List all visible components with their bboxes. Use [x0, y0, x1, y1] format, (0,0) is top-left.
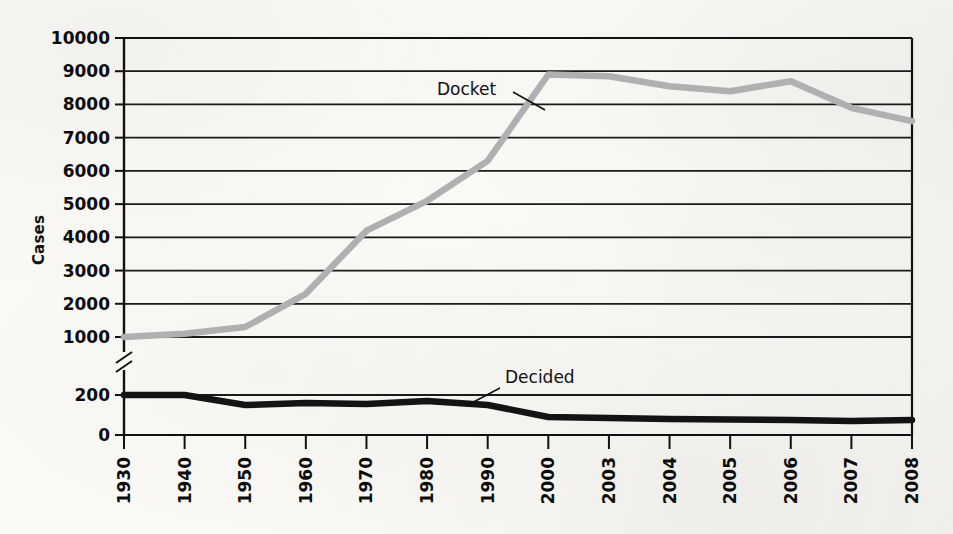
x-tick-label: 2000 — [538, 457, 558, 504]
y-tick-label: 3000 — [63, 261, 110, 281]
y-axis-ticks: 1000200030004000500060007000800090001000… — [51, 28, 124, 445]
y-tick-label: 1000 — [63, 327, 110, 347]
docket-series-line — [124, 75, 912, 338]
x-tick-label: 2007 — [841, 457, 861, 504]
decided-annotation: Decided — [466, 367, 575, 406]
decided-series-line — [124, 395, 912, 421]
y-tick-label: 8000 — [63, 94, 110, 114]
x-tick-label: 2008 — [902, 457, 922, 504]
x-tick-label: 2005 — [720, 457, 740, 504]
x-tick-label: 1960 — [296, 457, 316, 504]
x-tick-label: 1930 — [114, 457, 134, 504]
x-axis-ticks: 1930194019501960197019801990200020032004… — [114, 435, 922, 504]
axis-break-marker — [116, 352, 132, 372]
chart-figure: 1000200030004000500060007000800090001000… — [0, 0, 953, 534]
docket-label: Docket — [437, 79, 497, 99]
x-tick-label: 2004 — [660, 457, 680, 504]
y-tick-label: 4000 — [63, 227, 110, 247]
y-tick-label: 9000 — [63, 61, 110, 81]
y-tick-label: 0 — [98, 425, 110, 445]
x-tick-label: 1980 — [417, 457, 437, 504]
decided-label: Decided — [505, 367, 575, 387]
y-tick-label: 7000 — [63, 128, 110, 148]
x-tick-label: 1940 — [175, 457, 195, 504]
y-tick-label: 200 — [75, 385, 111, 405]
gridlines — [124, 71, 912, 337]
x-tick-label: 2006 — [781, 457, 801, 504]
chart-svg: 1000200030004000500060007000800090001000… — [0, 0, 953, 534]
y-axis-title: Cases — [30, 215, 48, 265]
y-tick-label: 5000 — [63, 194, 110, 214]
x-tick-label: 1970 — [356, 457, 376, 504]
y-tick-label: 6000 — [63, 161, 110, 181]
x-tick-label: 1990 — [478, 457, 498, 504]
y-tick-label: 10000 — [51, 28, 110, 48]
y-tick-label: 2000 — [63, 294, 110, 314]
x-tick-label: 1950 — [235, 457, 255, 504]
x-tick-label: 2003 — [599, 457, 619, 504]
